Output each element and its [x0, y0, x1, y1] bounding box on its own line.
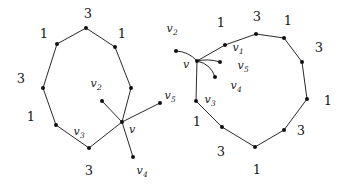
graph-node	[218, 60, 222, 64]
graph-node	[305, 97, 309, 101]
graph-edge	[122, 88, 131, 122]
vertex-label-v2: v2	[167, 23, 178, 34]
edge-weight-label: 3	[85, 164, 93, 177]
graph-edge	[256, 34, 284, 38]
edge-weight-label: 1	[118, 27, 126, 40]
graph-node	[129, 86, 133, 90]
graph-edge	[122, 103, 160, 122]
graph-node	[158, 101, 162, 105]
graph-node	[87, 146, 91, 150]
graph-node	[113, 45, 117, 49]
edge-weight-label: 1	[253, 163, 261, 176]
graph-edge	[86, 28, 115, 47]
graph-node	[100, 99, 104, 103]
vertex-label-v5: v5	[165, 90, 176, 101]
vertex-label-v: v	[129, 124, 135, 135]
graph-node	[131, 155, 135, 159]
edge-weight-label: 3	[297, 124, 305, 137]
graph-node	[54, 123, 58, 127]
vertex-label-v5: v5	[238, 60, 249, 71]
edge-weight-label: 1	[284, 14, 292, 27]
vertex-label-v1: v1	[233, 42, 244, 53]
graph-node	[220, 125, 224, 129]
graph-node	[223, 43, 227, 47]
edge-weight-label: 3	[217, 145, 225, 158]
graph-edge	[255, 130, 284, 147]
graph-node	[195, 59, 199, 63]
graph-figure: 311313v2v3vv5v4131313131v2v1vv5v4v3	[0, 0, 341, 185]
graph-node	[253, 145, 257, 149]
graph-edge	[196, 61, 197, 101]
edge-weight-label: 1	[27, 110, 35, 123]
vertex-label-v4: v4	[231, 80, 242, 91]
edge-weight-label: 3	[253, 10, 261, 23]
graph-edge	[115, 47, 131, 88]
edge-weight-label: 3	[17, 72, 25, 85]
graph-node	[194, 99, 198, 103]
vertex-label-v2: v2	[91, 78, 102, 89]
graph-edge	[197, 45, 225, 61]
vertex-label-v4: v4	[137, 165, 148, 176]
graph-node	[213, 75, 217, 79]
graph-node	[41, 86, 45, 90]
graph-edge	[222, 127, 255, 147]
graph-edge	[43, 88, 56, 125]
graph-node	[84, 26, 88, 30]
graph-node	[282, 36, 286, 40]
graph-node	[300, 60, 304, 64]
graph-edge	[284, 38, 302, 62]
graph-edge	[302, 62, 307, 99]
graph-edge-curved	[197, 61, 215, 77]
graph-node	[55, 42, 59, 46]
graph-node	[254, 32, 258, 36]
graph-node	[120, 120, 124, 124]
edge-weight-label: 3	[84, 7, 92, 20]
edge-weight-label: 3	[315, 41, 323, 54]
edge-weight-label: 1	[40, 27, 48, 40]
graph-edge	[43, 44, 57, 88]
vertex-label-v3: v3	[205, 94, 216, 105]
graph-node	[174, 49, 178, 53]
graph-edge	[102, 101, 122, 122]
vertex-label-v: v	[183, 59, 189, 70]
vertex-label-v3: v3	[74, 126, 85, 137]
edge-weight-label: 1	[217, 16, 225, 29]
edge-weight-label: 1	[324, 94, 332, 107]
graph-edge	[57, 28, 86, 44]
edge-weight-label: 1	[193, 115, 201, 128]
graph-node	[282, 128, 286, 132]
graph-edge	[89, 122, 122, 148]
